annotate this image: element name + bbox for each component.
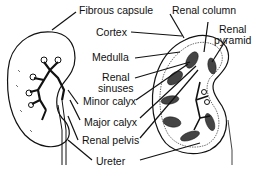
label-minor-calyx: Minor calyx bbox=[83, 96, 136, 107]
label-renal-pyramid: Renal pyramid bbox=[214, 24, 251, 46]
label-renal-sinuses: Renal sinuses bbox=[98, 72, 134, 94]
label-fibrous-capsule: Fibrous capsule bbox=[79, 5, 153, 16]
label-renal-column: Renal column bbox=[172, 5, 236, 16]
leader-renal-pelvis-left bbox=[68, 116, 78, 140]
label-renal-pelvis: Renal pelvis bbox=[82, 135, 139, 146]
label-ureter: Ureter bbox=[96, 156, 125, 167]
label-major-calyx: Major calyx bbox=[84, 117, 137, 128]
label-cortex: Cortex bbox=[96, 27, 127, 38]
leader-major-calyx-left bbox=[70, 100, 80, 120]
left-kidney bbox=[8, 32, 75, 165]
leader-fibrous-capsule-right bbox=[170, 14, 184, 38]
leader-fibrous-capsule-left bbox=[52, 12, 76, 30]
leader-minor-calyx-left bbox=[68, 90, 78, 104]
label-medulla: Medulla bbox=[92, 52, 129, 63]
kidney-diagram: Fibrous capsule Renal column Cortex Rena… bbox=[0, 0, 253, 173]
leader-cortex bbox=[131, 32, 182, 36]
